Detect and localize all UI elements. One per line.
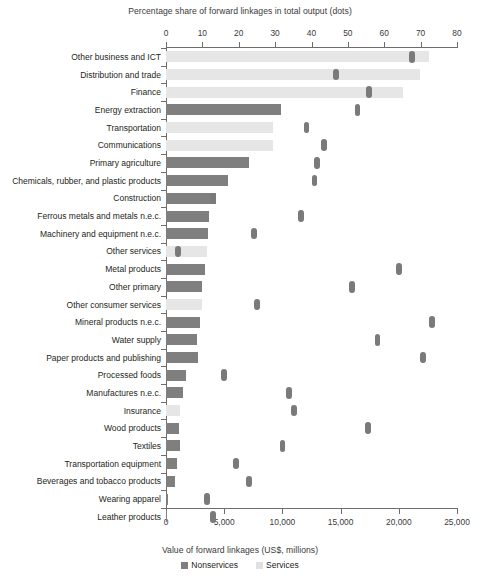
category-label: Transportation (107, 122, 162, 134)
chart-row (166, 455, 457, 473)
percentage-share-dot (304, 122, 309, 134)
percentage-share-dot (429, 316, 434, 328)
category-label: Other services (106, 245, 161, 257)
value-bar (166, 317, 200, 328)
value-bar (166, 494, 168, 505)
percentage-share-dot (420, 352, 425, 364)
percentage-share-dot (210, 193, 215, 205)
chart-row (166, 508, 457, 526)
chart-row (166, 278, 457, 296)
percentage-share-dot (314, 157, 319, 169)
value-bar (166, 458, 177, 469)
chart-row (166, 48, 457, 66)
category-label: Leather products (97, 511, 161, 523)
percentage-share-dot (396, 263, 401, 275)
category-label: Manufactures n.e.c. (86, 387, 161, 399)
chart-row (166, 207, 457, 225)
value-bar (166, 157, 249, 168)
value-bar (166, 299, 202, 310)
legend-swatch-icon (181, 562, 188, 569)
chart-row (166, 366, 457, 384)
category-label: Mineral products n.e.c. (75, 316, 161, 328)
chart-row (166, 243, 457, 261)
category-label: Ferrous metals and metals n.e.c. (37, 210, 161, 222)
top-axis-title: Percentage share of forward linkages in … (0, 6, 480, 16)
chart-row (166, 437, 457, 455)
value-bar (166, 264, 205, 275)
value-bar (166, 175, 228, 186)
percentage-share-dot (280, 440, 285, 452)
percentage-share-dot (333, 69, 338, 81)
category-label: Energy extraction (95, 104, 161, 116)
category-label: Construction (113, 192, 161, 204)
value-bar (166, 246, 207, 257)
percentage-share-dot (321, 139, 326, 151)
value-bar (166, 440, 180, 451)
percentage-share-dot (254, 299, 259, 311)
category-label: Paper products and publishing (46, 352, 161, 364)
category-label: Machinery and equipment n.e.c. (40, 228, 161, 240)
value-bar (166, 370, 186, 381)
percentage-share-dot (210, 511, 215, 523)
category-label: Wood products (104, 422, 161, 434)
chart-row (166, 313, 457, 331)
legend-item: Nonservices (181, 560, 238, 570)
chart-row (166, 154, 457, 172)
percentage-share-dot (349, 281, 354, 293)
percentage-share-dot (409, 51, 414, 63)
value-bar (166, 211, 209, 222)
chart-row (166, 473, 457, 491)
percentage-share-dot (246, 476, 251, 488)
chart-row (166, 384, 457, 402)
category-label: Textiles (133, 440, 161, 452)
legend-swatch-icon (256, 562, 263, 569)
category-label: Finance (131, 86, 161, 98)
category-label: Distribution and trade (80, 69, 161, 81)
chart-row (166, 172, 457, 190)
percentage-share-dot (375, 334, 380, 346)
value-bar (166, 122, 273, 133)
chart-row (166, 66, 457, 84)
category-label: Communications (98, 139, 161, 151)
chart-row (166, 136, 457, 154)
percentage-share-dot (365, 422, 370, 434)
percentage-share-dot (251, 228, 256, 240)
value-bar (166, 352, 198, 363)
chart-row (166, 101, 457, 119)
category-label: Chemicals, rubber, and plastic products (12, 175, 161, 187)
category-label: Insurance (124, 405, 161, 417)
value-bar (166, 193, 216, 204)
category-label: Other business and ICT (71, 51, 161, 63)
top-axis-tick (457, 42, 458, 48)
percentage-share-dot (366, 86, 371, 98)
chart-row (166, 119, 457, 137)
percentage-share-dot (233, 458, 238, 470)
chart-row (166, 402, 457, 420)
category-label: Other consumer services (67, 299, 161, 311)
value-bar (166, 69, 420, 80)
chart-row (166, 419, 457, 437)
chart-row (166, 296, 457, 314)
chart-row (166, 349, 457, 367)
value-bar (166, 334, 197, 345)
value-bar (166, 423, 179, 434)
category-label: Water supply (112, 334, 161, 346)
plot-area (166, 48, 457, 508)
legend-label: Nonservices (191, 560, 238, 570)
value-bar (166, 51, 429, 62)
chart-row (166, 83, 457, 101)
chart-row (166, 331, 457, 349)
percentage-share-dot (291, 405, 296, 417)
legend: NonservicesServices (0, 560, 480, 570)
percentage-share-dot (286, 387, 291, 399)
category-label: Beverages and tobacco products (37, 475, 161, 487)
category-label: Metal products (105, 263, 161, 275)
legend-label: Services (266, 560, 299, 570)
percentage-share-dot (298, 210, 303, 222)
bottom-axis-tick (457, 508, 458, 514)
category-label: Transportation equipment (64, 458, 161, 470)
category-label: Wearing apparel (99, 493, 161, 505)
chart-row (166, 490, 457, 508)
percentage-share-dot (221, 369, 226, 381)
bottom-axis-title: Value of forward linkages (US$, millions… (0, 545, 480, 555)
